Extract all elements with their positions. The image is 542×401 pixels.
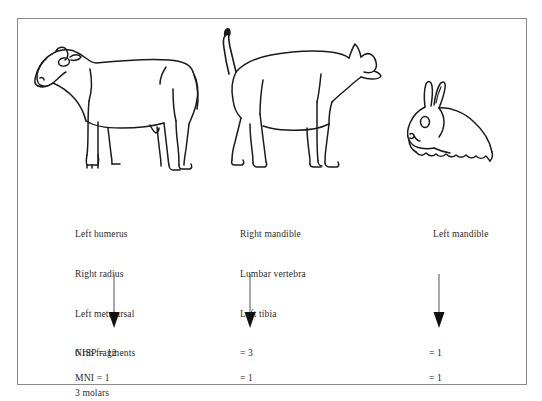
dog-icon [203, 24, 383, 179]
bone-list-item: Left humerus [75, 228, 135, 241]
down-arrow-icon [429, 274, 449, 333]
nisp-value-dog: = 3 [240, 347, 253, 358]
bone-list-rabbit: Left mandible [433, 202, 489, 268]
nisp-value-cow: NISP = 12 [75, 347, 117, 358]
bone-list-item: Right mandible [240, 228, 306, 241]
down-arrow-icon [104, 274, 124, 333]
mni-value-cow: MNI = 1 [75, 372, 110, 383]
cow-icon [26, 29, 206, 174]
mni-value-rabbit: = 1 [429, 372, 442, 383]
bone-list-item: Left mandible [433, 228, 489, 241]
down-arrow-icon [240, 274, 260, 333]
nisp-value-rabbit: = 1 [429, 347, 442, 358]
bone-list-item: 3 molars [75, 387, 135, 400]
rabbit-icon [394, 72, 524, 172]
mni-value-dog: = 1 [240, 372, 253, 383]
figure-frame: Left humerus Right radius Left metatarsa… [17, 18, 527, 385]
